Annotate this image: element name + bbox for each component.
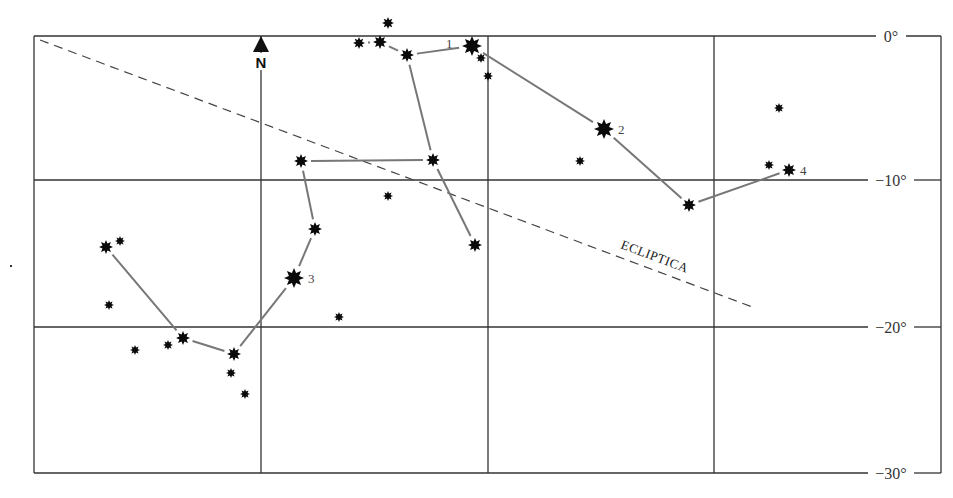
star-icon <box>594 119 614 139</box>
stray-dot <box>10 265 12 267</box>
star-icon <box>227 347 241 361</box>
stars <box>99 17 796 399</box>
star-icon <box>682 198 696 212</box>
star-icon <box>99 240 113 254</box>
declination-label: 0° <box>884 28 898 45</box>
star-icon <box>383 191 393 201</box>
constellation-line <box>112 255 176 331</box>
star-number-label: 4 <box>800 163 807 178</box>
star-icon <box>782 163 796 177</box>
star-icon <box>115 236 125 246</box>
star-icon <box>575 156 585 166</box>
declination-label: −10° <box>875 172 906 189</box>
constellation-line <box>698 173 779 201</box>
constellation-line <box>409 65 430 151</box>
ecliptic-line: ECLIPTICA <box>40 40 755 308</box>
coordinate-grid: 0°−10°−20°−30° <box>34 28 941 482</box>
ecliptic-path <box>40 40 755 308</box>
constellation-line <box>389 46 398 50</box>
constellation-line <box>437 169 470 236</box>
star-icon <box>426 153 440 167</box>
north-arrow-icon <box>253 36 269 52</box>
declination-label: −30° <box>875 465 906 482</box>
star-number-label: 1 <box>446 36 453 51</box>
star-icon <box>462 36 482 56</box>
constellation-line <box>311 160 423 161</box>
constellation-line <box>299 238 311 266</box>
ecliptic-label: ECLIPTICA <box>619 237 691 276</box>
constellation-line <box>614 138 682 199</box>
star-icon <box>400 48 414 62</box>
constellation-line <box>303 171 313 219</box>
star-icon <box>130 345 140 355</box>
star-icon <box>468 238 482 252</box>
star-number-label: 3 <box>308 271 315 286</box>
constellation-line <box>193 341 225 351</box>
star-icon <box>176 331 190 345</box>
star-icon <box>774 103 784 113</box>
constellation-line <box>417 48 459 54</box>
constellation-line <box>483 53 593 122</box>
star-icon <box>104 300 114 310</box>
constellation-lines <box>112 42 779 351</box>
star-icon <box>334 312 344 322</box>
star-icon <box>373 35 387 49</box>
north-marker: N <box>251 36 271 71</box>
star-icon <box>240 389 250 399</box>
north-label: N <box>256 54 267 71</box>
star-number-label: 2 <box>618 122 625 137</box>
star-icon <box>163 340 173 350</box>
star-icon <box>764 160 774 170</box>
star-chart: 0°−10°−20°−30° ECLIPTICA 1234 N <box>0 0 953 498</box>
star-icon <box>382 17 394 29</box>
declination-label: −20° <box>875 319 906 336</box>
star-icon <box>226 368 236 378</box>
constellation-line <box>240 288 286 346</box>
star-icon <box>284 268 304 288</box>
star-icon <box>476 53 486 63</box>
star-icon <box>483 71 493 81</box>
star-icon <box>353 37 365 49</box>
star-icon <box>308 222 322 236</box>
star-icon <box>294 154 308 168</box>
